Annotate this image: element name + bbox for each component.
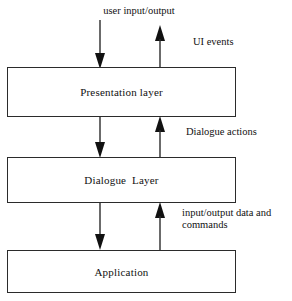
arrow-application-to-dialogue-up-icon: [150, 202, 170, 251]
box-presentation-layer-label: Presentation layer: [80, 86, 163, 98]
label-input-output-data-and-commands: input/output data and commands: [182, 207, 290, 231]
label-dialogue-actions: Dialogue actions: [186, 126, 257, 138]
arrow-dialogue-to-application-down-icon: [90, 202, 110, 251]
arrow-user-input-down-icon: [90, 20, 110, 70]
label-user-input-output: user input/output: [74, 5, 204, 17]
box-dialogue-layer-label: Dialogue Layer: [84, 174, 158, 186]
box-presentation-layer[interactable]: Presentation layer: [7, 67, 236, 117]
arrow-dialogue-to-presentation-up-icon: [150, 116, 170, 159]
arrow-presentation-to-dialogue-down-icon: [90, 116, 110, 159]
arrow-ui-events-up-icon: [150, 25, 170, 69]
box-application[interactable]: Application: [7, 250, 236, 293]
architecture-diagram: user input/output UI events Presentation…: [0, 0, 292, 301]
box-dialogue-layer[interactable]: Dialogue Layer: [7, 157, 236, 203]
label-ui-events: UI events: [193, 36, 234, 48]
box-application-label: Application: [94, 266, 148, 278]
